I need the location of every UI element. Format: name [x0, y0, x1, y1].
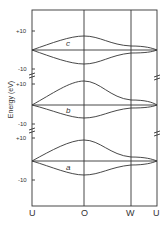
tick-b-plus10: +10	[16, 81, 26, 87]
panel-b-lower-curve	[32, 105, 157, 118]
panel-b-upper-curve	[32, 81, 157, 105]
tick-c-plus10: +10	[16, 28, 26, 34]
x-label-U-left: U	[29, 208, 36, 218]
tick-a-plus10: +10	[16, 135, 26, 141]
x-label-U-right: U	[153, 208, 160, 218]
panel-c-lower-curve	[32, 50, 157, 64]
tick-c-minus10: -10	[18, 66, 27, 72]
panel-label-a: a	[66, 163, 70, 172]
panel-label-c: c	[66, 39, 70, 48]
tick-a-minus10: -10	[18, 177, 27, 183]
band-structure-figure: +10 -10 +10 -10 +10 -10 Energy (eV) c b …	[0, 0, 163, 226]
panel-a-lower-curve	[32, 161, 157, 175]
tick-b-minus10: -10	[18, 121, 27, 127]
panel-c-upper-curve	[32, 36, 157, 50]
y-axis-label: Energy (eV)	[7, 81, 14, 118]
x-label-W: W	[126, 208, 135, 218]
panel-a-upper-curve	[32, 140, 157, 161]
x-label-O: O	[81, 208, 88, 218]
panel-label-b: b	[66, 106, 70, 115]
